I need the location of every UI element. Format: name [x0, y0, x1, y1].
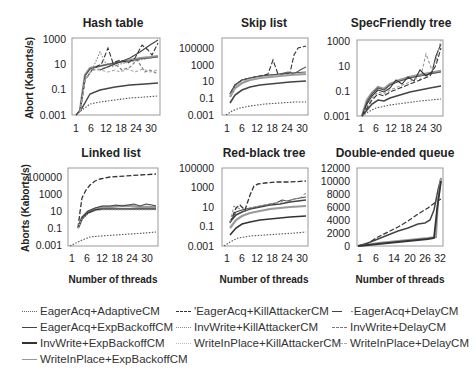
svg-text:12: 12 [251, 122, 263, 134]
svg-text:12: 12 [96, 252, 108, 264]
svg-text:1: 1 [224, 252, 230, 264]
x-ticks: 1 6 12 18 24 30 [358, 122, 442, 134]
svg-text:1000: 1000 [43, 33, 67, 45]
series-lines [70, 174, 156, 246]
svg-text:18: 18 [115, 122, 127, 134]
series-lines [224, 181, 306, 246]
svg-text:30: 30 [296, 122, 308, 134]
chart-title: Hash table [83, 16, 144, 30]
svg-text:2000: 2000 [327, 227, 351, 239]
svg-text:30: 30 [141, 252, 153, 264]
chart-double-ended-queue: Double-ended queue 12000 10000 8000 6000… [321, 146, 455, 285]
svg-text:30: 30 [145, 122, 157, 134]
x-axis-label: Number of threads [69, 274, 158, 285]
svg-text:8000: 8000 [327, 188, 351, 200]
svg-text:100000: 100000 [179, 42, 214, 54]
chart-skip-list: Skip list 100000 1000 10 0.1 0.001 1 6 1… [179, 16, 308, 134]
svg-text:1: 1 [224, 122, 230, 134]
svg-text:0.1: 0.1 [199, 92, 214, 104]
svg-text:100000: 100000 [27, 171, 62, 183]
svg-text:30: 30 [296, 252, 308, 264]
svg-text:12000: 12000 [321, 162, 350, 174]
svg-text:6: 6 [239, 122, 245, 134]
svg-text:10: 10 [202, 201, 214, 213]
svg-text:26: 26 [419, 252, 431, 264]
svg-text:6: 6 [373, 122, 379, 134]
svg-text:18: 18 [111, 252, 123, 264]
long-dash-line-icon [332, 311, 342, 312]
svg-text:0.001: 0.001 [188, 240, 214, 252]
series-lines [362, 40, 441, 116]
svg-text:0.1: 0.1 [47, 222, 62, 234]
svg-text:0.1: 0.1 [199, 220, 214, 232]
dotted-line-icon [22, 311, 37, 312]
chart-title: SpecFriendly tree [351, 16, 452, 30]
solid-line-icon [22, 327, 37, 328]
svg-text:100000: 100000 [179, 162, 214, 174]
series-lines [358, 178, 441, 246]
svg-text:18: 18 [266, 122, 278, 134]
svg-text:1: 1 [357, 252, 363, 264]
svg-text:12: 12 [251, 252, 263, 264]
legend-item: WriteInPlace+DelayCM [332, 337, 469, 349]
series-lines [226, 46, 306, 115]
svg-text:24: 24 [126, 252, 138, 264]
svg-text:24: 24 [130, 122, 142, 134]
svg-text:24: 24 [281, 122, 293, 134]
svg-text:24: 24 [281, 252, 293, 264]
svg-text:12: 12 [100, 122, 112, 134]
svg-text:6: 6 [239, 252, 245, 264]
charts-canvas: Hash table Abort (Kaborts/s) 1000 10 0.1… [0, 0, 475, 300]
chart-title: Linked list [81, 146, 140, 160]
legend-item: InvWrite+KillAttackerCM [176, 321, 318, 333]
svg-text:0.001: 0.001 [188, 109, 214, 121]
chart-title: Skip list [241, 16, 287, 30]
legend-item: WriteInPlace+KillAttackerCM [176, 337, 341, 349]
svg-text:18: 18 [266, 252, 278, 264]
svg-text:10: 10 [54, 58, 66, 70]
x-ticks: 1 6 12 18 24 30 [73, 122, 157, 134]
chart-title: Red-black tree [223, 146, 306, 160]
svg-text:1: 1 [358, 122, 364, 134]
svg-text:0.1: 0.1 [335, 85, 350, 97]
svg-text:10: 10 [50, 205, 62, 217]
legend-item: ·EagerAcq+DelayCM [332, 305, 458, 317]
legend-item: InvWrite+DelayCM [332, 321, 446, 333]
dashed-line-icon [332, 327, 347, 328]
x-axis-label: Number of threads [356, 274, 445, 285]
svg-text:32: 32 [434, 252, 446, 264]
svg-text:24: 24 [415, 122, 427, 134]
plot-area [357, 168, 443, 246]
x-ticks: 1 6 14 20 26 32 [357, 252, 446, 264]
dotted-line-icon [176, 343, 191, 344]
series-lines [76, 40, 158, 115]
svg-text:1: 1 [73, 122, 79, 134]
legend-item: 'EagerAcq+KillAttackerCM [176, 305, 329, 317]
svg-text:6: 6 [373, 252, 379, 264]
plot-area [357, 40, 443, 116]
chart-linked-list: Linked list Aborts (Kaborts/s) 100000 10… [20, 146, 158, 285]
svg-text:1000: 1000 [191, 59, 215, 71]
svg-text:1000: 1000 [327, 35, 351, 47]
dashed-line-icon [176, 311, 191, 312]
x-axis-label: Number of threads [220, 274, 309, 285]
svg-text:0.1: 0.1 [51, 83, 66, 95]
y-axis-label: Abort (Kaborts/s) [24, 37, 35, 119]
thick-line-icon [22, 342, 37, 344]
chart-specfriendly-tree: SpecFriendly tree 1000 10 0.1 0.001 1 6 … [324, 16, 452, 134]
x-ticks: 1 6 12 18 24 30 [224, 252, 308, 264]
chart-red-black-tree: Red-black tree 100000 1000 10 0.1 0.001 … [179, 146, 309, 285]
legend-item: EagerAcq+AdaptiveCM [22, 305, 160, 317]
chart-title: Double-ended queue [336, 146, 455, 160]
svg-text:10: 10 [202, 75, 214, 87]
chart-hash-table: Hash table Abort (Kaborts/s) 1000 10 0.1… [24, 16, 160, 134]
svg-text:18: 18 [400, 122, 412, 134]
svg-text:1: 1 [69, 252, 75, 264]
svg-text:14: 14 [388, 252, 400, 264]
legend-item: InvWrite+ExpBackoffCM [22, 337, 165, 349]
svg-text:10000: 10000 [321, 175, 350, 187]
svg-text:6000: 6000 [327, 201, 351, 213]
legend-item: EagerAcq+ExpBackoffCM [22, 321, 173, 333]
dashed-line-icon [332, 343, 347, 344]
dotted-line-icon [176, 327, 191, 328]
